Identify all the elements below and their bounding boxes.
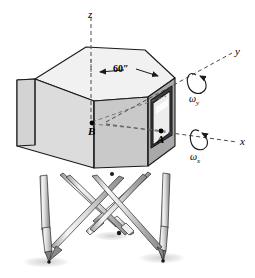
omega-x-subscript: x [197, 157, 200, 165]
omega-y-label: ωy [189, 94, 199, 107]
point-label-B: B [88, 126, 95, 137]
axis-label-y: y [235, 46, 240, 57]
omega-x-symbol: ω [190, 151, 197, 162]
axis-label-x: x [240, 136, 245, 147]
omega-x-label: ωx [190, 152, 200, 165]
simulator-diagram-svg [0, 0, 255, 278]
omega-x-rotation-arrow [190, 130, 207, 150]
omega-y-rotation-arrow [187, 73, 206, 93]
hexagonal-cabin [17, 47, 175, 168]
cabin-front-face [94, 97, 148, 168]
omega-y-symbol: ω [189, 93, 196, 104]
leg-front-left [40, 175, 52, 262]
axis-label-z: z [88, 9, 92, 20]
leg-assembly [40, 172, 170, 264]
omega-y-subscript: y [196, 99, 199, 107]
figure-canvas: z y x ωy ωx B A 60″ [0, 0, 255, 278]
point-label-A: A [157, 134, 164, 145]
dimension-label-60in: 60″ [113, 63, 129, 74]
